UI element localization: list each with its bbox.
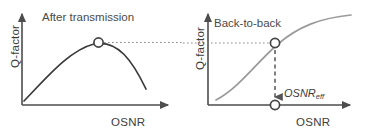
- x-axis-label-back-to-back: OSNR: [296, 117, 330, 129]
- panel-title-after-transmission: After transmission: [42, 12, 134, 24]
- y-axis-label-back-to-back: Q-factor: [195, 27, 207, 70]
- osnr-eff-annotation: OSNReff: [284, 88, 324, 99]
- osnr-eff-annotation-base: OSNR: [284, 87, 316, 99]
- optimum-point-marker: [94, 38, 103, 47]
- figure-root: After transmission Q-factor OSNR: [0, 0, 365, 135]
- x-axis-label-after-transmission: OSNR: [111, 117, 145, 129]
- curve-after-transmission: [24, 43, 146, 101]
- panel-title-back-to-back: Back-to-back: [214, 18, 281, 30]
- osnr-eff-annotation-subscript: eff: [316, 92, 324, 101]
- y-axis-label-after-transmission: Q-factor: [10, 25, 22, 68]
- panel-back-to-back: Back-to-back Q-factor OSNR OSNReff: [183, 0, 365, 135]
- panel-after-transmission: After transmission Q-factor OSNR: [0, 0, 183, 135]
- q-intersection-point-marker: [270, 38, 279, 47]
- osnr-eff-point-marker: [270, 100, 279, 109]
